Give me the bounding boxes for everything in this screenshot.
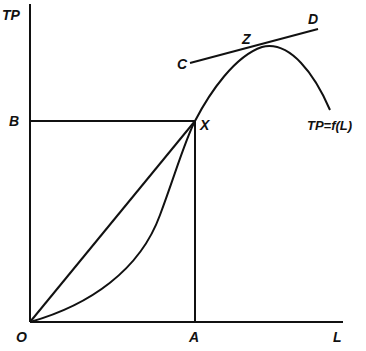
point-d-label: D	[308, 11, 318, 27]
production-diagram: TP L O A B X C Z D TP=f(L)	[0, 0, 366, 351]
curve-label: TP=f(L)	[307, 118, 352, 133]
point-z-label: Z	[241, 31, 251, 47]
ray-ox	[30, 121, 195, 322]
tp-curve	[30, 46, 330, 322]
point-c-label: C	[177, 56, 188, 72]
point-a-label: A	[188, 329, 199, 345]
y-axis-label: TP	[2, 7, 21, 23]
point-x-label: X	[199, 117, 211, 133]
x-axis-label: L	[333, 329, 342, 345]
origin-label: O	[16, 329, 27, 345]
tangent-cd	[190, 29, 318, 63]
point-b-label: B	[9, 113, 19, 129]
